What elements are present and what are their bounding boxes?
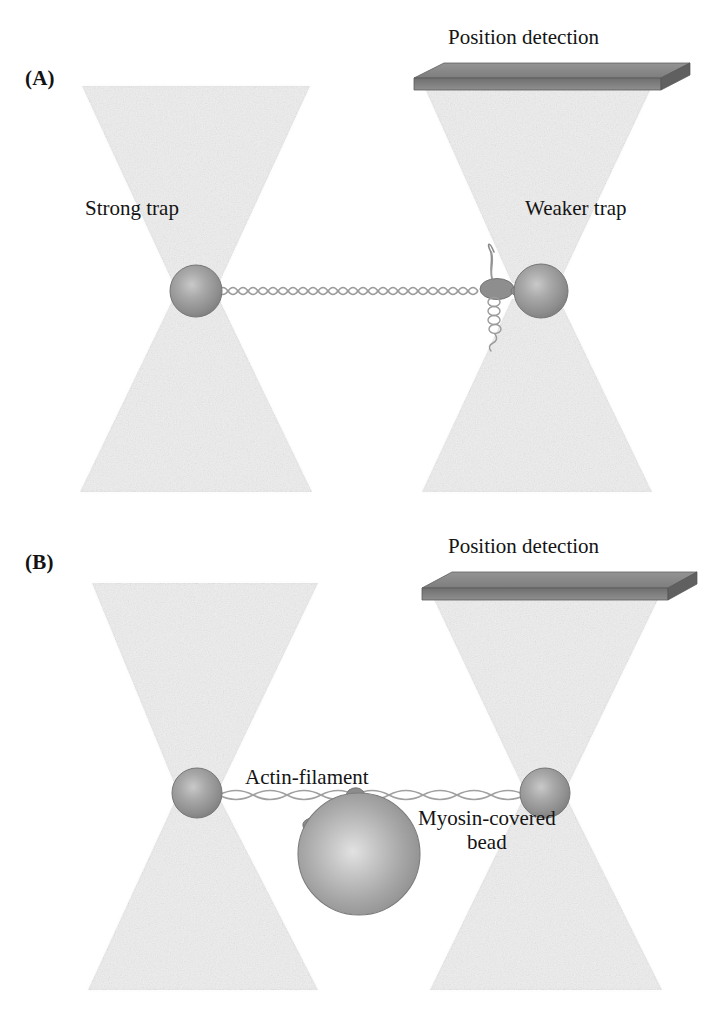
myosin-label-line-2: bead: [418, 831, 556, 855]
myosin-label-line-1: Myosin-covered: [418, 806, 556, 830]
actin-filament-label: Actin-filament: [245, 765, 369, 790]
detector-label-a: Position detection: [448, 25, 599, 50]
panel-b: (B) Position detection Actin-filament My…: [0, 512, 717, 1025]
panel-label-a: (A): [25, 66, 55, 91]
panel-label-b: (B): [25, 550, 54, 575]
panel-a: (A) Position detection Strong trap Weake…: [0, 0, 717, 512]
myosin-covered-bead-label: Myosin-covered bead: [418, 807, 556, 854]
strong-trap-label: Strong trap: [85, 196, 179, 221]
figure-canvas: (A) Position detection Strong trap Weake…: [0, 0, 717, 1025]
detector-label-b: Position detection: [448, 534, 599, 559]
weaker-trap-label: Weaker trap: [525, 196, 627, 221]
